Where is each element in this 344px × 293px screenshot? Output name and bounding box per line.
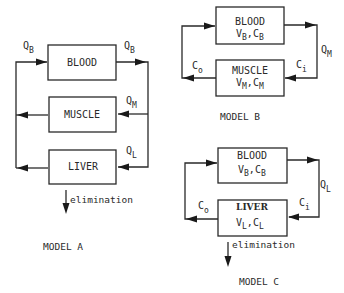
model-a-qm-label: QM — [126, 95, 137, 110]
model-c-ci-label: Ci — [299, 197, 310, 212]
model-c-supply-line — [287, 160, 319, 217]
model-a-ql-label: QL — [126, 145, 137, 160]
arrow-head-icon — [135, 59, 146, 66]
model-c-ql-label: QL — [320, 179, 331, 194]
arrow-head-icon — [186, 216, 197, 223]
model-b: BLOOD VB,CB MUSCLE VM,CM QM Ci Co MODEL … — [182, 7, 332, 122]
model-b-blood-label: BLOOD — [235, 16, 265, 27]
model-c-co-label: Co — [198, 200, 209, 215]
model-b-co-label: Co — [192, 60, 203, 75]
pharmacokinetic-models-diagram: BLOOD MUSCLE LIVER QB QB QM QL eliminati… — [0, 0, 344, 293]
arrow-head-icon — [204, 23, 215, 30]
arrow-head-icon — [183, 75, 194, 82]
model-b-ci-label: Ci — [296, 59, 307, 74]
arrow-head-icon — [206, 160, 217, 167]
model-b-title: MODEL B — [220, 111, 260, 122]
model-a-elimination-label: elimination — [70, 194, 133, 205]
arrow-head-icon — [285, 75, 296, 82]
arrow-head-icon — [288, 214, 299, 221]
model-b-muscle-label: MUSCLE — [232, 65, 268, 76]
model-a-qb-out-label: QB — [124, 40, 135, 55]
model-a: BLOOD MUSCLE LIVER QB QB QM QL eliminati… — [16, 40, 148, 252]
model-c: BLOOD VB,CB LIVER VL,CL QL Ci Co elimina… — [185, 148, 331, 287]
model-a-muscle-label: MUSCLE — [64, 109, 100, 120]
elimination-arrow-icon — [225, 256, 232, 267]
arrow-head-icon — [307, 157, 318, 164]
arrow-head-icon — [17, 165, 28, 172]
model-a-title: MODEL A — [43, 241, 83, 252]
model-a-blood-label: BLOOD — [67, 57, 97, 68]
arrow-head-icon — [118, 164, 129, 171]
model-b-supply-line — [284, 25, 317, 78]
arrow-head-icon — [305, 22, 316, 29]
model-a-liver-label: LIVER — [68, 161, 99, 172]
model-a-qb-in-label: QB — [23, 40, 34, 55]
arrow-head-icon — [36, 59, 47, 66]
elimination-arrow-icon — [63, 203, 70, 214]
model-c-blood-label: BLOOD — [237, 150, 267, 161]
model-c-title: MODEL C — [239, 276, 279, 287]
arrow-head-icon — [118, 111, 129, 118]
arrow-head-icon — [17, 112, 28, 119]
model-b-qm-label: QM — [321, 44, 332, 59]
model-c-elimination-label: elimination — [232, 239, 295, 250]
model-c-liver-label: LIVER — [236, 202, 268, 212]
